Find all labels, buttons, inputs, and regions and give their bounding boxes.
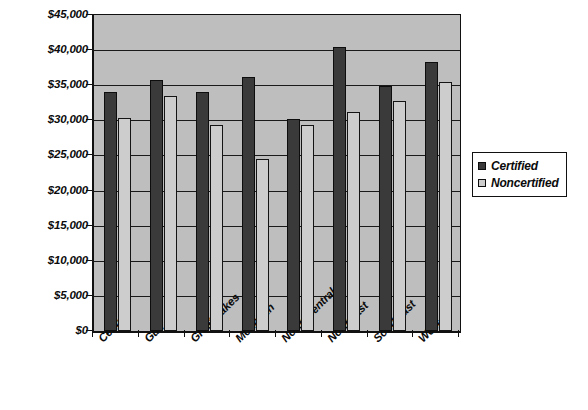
bar-chart: $45,000$40,000$35,000$30,000$25,000$20,0… xyxy=(0,0,588,410)
light-square-icon xyxy=(478,179,486,187)
y-axis-tick-label: $0 xyxy=(2,324,88,336)
y-axis-tick-label: $35,000 xyxy=(2,78,88,90)
bar-certified xyxy=(242,77,255,331)
bar-noncertified xyxy=(210,125,223,331)
y-axis-tick-label: $10,000 xyxy=(2,254,88,266)
legend-item[interactable]: Noncertified xyxy=(478,174,559,191)
bar-certified xyxy=(104,92,117,331)
y-axis-tick-label: $40,000 xyxy=(2,43,88,55)
y-axis-tick-label: $45,000 xyxy=(2,8,88,20)
bar-certified xyxy=(333,47,346,331)
bar-noncertified xyxy=(439,82,452,331)
chart-legend: Certified Noncertified xyxy=(472,152,567,197)
bar-noncertified xyxy=(256,159,269,331)
bar-noncertified xyxy=(118,118,131,331)
bar-noncertified xyxy=(347,112,360,331)
bar-certified xyxy=(196,92,209,331)
gridline xyxy=(94,50,460,51)
y-axis-label-group: $45,000$40,000$35,000$30,000$25,000$20,0… xyxy=(0,14,88,330)
bar-noncertified xyxy=(393,101,406,331)
bar-noncertified xyxy=(301,125,314,331)
bar-certified xyxy=(150,80,163,331)
gridline xyxy=(94,85,460,86)
bar-certified xyxy=(287,119,300,331)
y-axis-tick-label: $30,000 xyxy=(2,113,88,125)
legend-item-label: Noncertified xyxy=(491,176,559,190)
legend-item-label: Certified xyxy=(491,159,538,173)
legend-item[interactable]: Certified xyxy=(478,157,559,174)
dark-square-icon xyxy=(478,162,486,170)
y-axis-tick-label: $15,000 xyxy=(2,219,88,231)
y-axis-tick-label: $20,000 xyxy=(2,184,88,196)
bar-certified xyxy=(379,86,392,331)
plot-area xyxy=(92,14,461,333)
x-axis-label-group: CentralGulfGreat LakesMountainNorth Cent… xyxy=(92,336,460,410)
bar-certified xyxy=(425,62,438,331)
bar-noncertified xyxy=(164,96,177,331)
y-axis-tick-label: $25,000 xyxy=(2,148,88,160)
y-axis-tick-label: $5,000 xyxy=(2,289,88,301)
